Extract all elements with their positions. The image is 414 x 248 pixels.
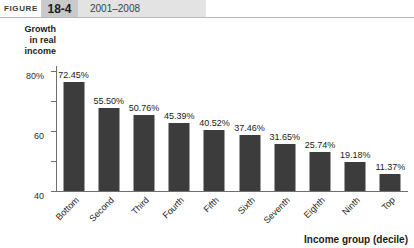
y-axis-title-line: in real [4, 35, 56, 46]
x-axis-category-label: Bottom [53, 195, 80, 222]
bar-group: 72.45%Bottom [56, 66, 91, 191]
figure-header: FIGURE 18-4 2001–2008 [0, 0, 414, 17]
bar [274, 144, 295, 191]
bar-group: 40.52%Fifth [197, 66, 232, 191]
y-axis-title: Growthin realincome [4, 24, 56, 57]
x-axis-category-label: Second [87, 195, 116, 224]
bar [239, 135, 260, 191]
bar-group: 19.18%Ninth [338, 66, 373, 191]
bar [380, 174, 401, 191]
x-axis-category-label: Third [129, 195, 151, 217]
bar-value-label: 19.18% [340, 150, 371, 160]
figure-number-box: 18-4 [41, 0, 78, 17]
figure-title-box: 2001–2008 [78, 0, 206, 17]
chart-plot-area: 020406080% 72.45%Bottom55.50%Second50.76… [56, 66, 408, 192]
bar-value-label: 72.45% [58, 70, 89, 80]
bar-value-label: 37.46% [234, 123, 265, 133]
header-divider [0, 17, 414, 18]
bar [204, 130, 225, 191]
bar-value-label: 40.52% [199, 118, 230, 128]
bar-value-label: 50.76% [129, 103, 160, 113]
x-axis-category-label: Fifth [202, 195, 221, 214]
x-axis-category-label: Seventh [261, 195, 291, 225]
bar [345, 162, 366, 191]
bar-group: 25.74%Eighth [302, 66, 337, 191]
x-axis-title: Income group (decile) [304, 234, 408, 245]
y-axis-tick-label: 80% [26, 71, 44, 81]
bar-value-label: 55.50% [94, 96, 125, 106]
x-axis-category-label: Fourth [161, 195, 186, 220]
x-axis-category-label: Eighth [302, 195, 327, 220]
bar-value-label: 25.74% [305, 140, 336, 150]
bar [98, 108, 119, 191]
bar-value-label: 45.39% [164, 111, 195, 121]
y-axis-tick-label: 40 [34, 191, 44, 201]
y-axis-title-line: income [4, 46, 56, 57]
x-axis-category-label: Sixth [235, 195, 256, 216]
x-axis-line [56, 191, 408, 192]
bar-value-label: 31.65% [270, 132, 301, 142]
bar-value-label: 11.37% [375, 162, 405, 172]
figure-number: 18-4 [41, 2, 78, 16]
bar [133, 115, 154, 191]
bar-group: 45.39%Fourth [162, 66, 197, 191]
x-axis-category-label: Ninth [340, 195, 362, 217]
bar-group: 37.46%Sixth [232, 66, 267, 191]
bar-group: 11.37%Top [373, 66, 408, 191]
bar [309, 152, 330, 191]
x-axis-category-label: Top [380, 195, 397, 212]
bar-group: 55.50%Second [91, 66, 126, 191]
bar-group: 50.76%Third [126, 66, 161, 191]
y-axis-title-line: Growth [4, 24, 56, 35]
y-axis-tick: 0 [51, 191, 56, 192]
bar-group: 31.65%Seventh [267, 66, 302, 191]
y-axis-tick-label: 60 [34, 131, 44, 141]
bar [63, 82, 84, 191]
figure-word-label: FIGURE [4, 4, 38, 13]
figure-title: 2001–2008 [90, 3, 140, 14]
bar [169, 123, 190, 191]
